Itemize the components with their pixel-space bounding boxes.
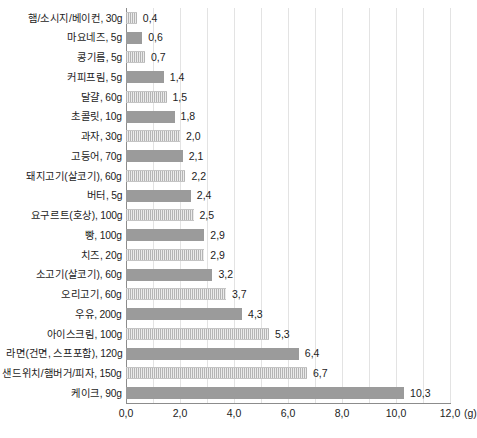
bar bbox=[126, 32, 142, 44]
category-label: 빵, 100g bbox=[85, 230, 122, 241]
bar-value-label: 3,2 bbox=[218, 269, 233, 280]
bar bbox=[126, 387, 404, 399]
category-label: 우유, 200g bbox=[75, 309, 122, 320]
category-label-row: 돼지고기(살코기), 60g bbox=[0, 166, 122, 186]
bar-row: 2,1 bbox=[126, 146, 472, 166]
category-label-row: 치즈, 20g bbox=[0, 245, 122, 265]
bar bbox=[126, 91, 167, 103]
category-label: 돼지고기(살코기), 60g bbox=[26, 171, 122, 182]
x-tick-label-10: 10,0 bbox=[386, 408, 406, 419]
bar-row: 4,3 bbox=[126, 304, 472, 324]
bar bbox=[126, 348, 299, 360]
category-label-row: 마요네즈, 5g bbox=[0, 28, 122, 48]
category-label: 라면(건면, 스프포함), 120g bbox=[6, 348, 122, 359]
bar bbox=[126, 269, 212, 281]
bar-value-label: 1,4 bbox=[170, 72, 185, 83]
bar-value-label: 2,0 bbox=[186, 131, 201, 142]
bar-value-label: 2,1 bbox=[189, 151, 204, 162]
bar-value-label: 1,5 bbox=[173, 92, 188, 103]
bar-row: 6,7 bbox=[126, 364, 472, 384]
bar bbox=[126, 130, 180, 142]
x-tick-label-6: 6,0 bbox=[281, 408, 296, 419]
bar bbox=[126, 190, 191, 202]
category-label: 마요네즈, 5g bbox=[67, 32, 122, 43]
category-label: 햄/소시지/베이컨, 30g bbox=[28, 13, 122, 24]
bar-row: 2,9 bbox=[126, 245, 472, 265]
category-label: 치즈, 20g bbox=[81, 250, 122, 261]
bar-row: 0,6 bbox=[126, 28, 472, 48]
bar bbox=[126, 111, 175, 123]
category-label: 샌드위치/햄버거/피자, 150g bbox=[3, 368, 122, 379]
category-label: 초콜릿, 10g bbox=[71, 111, 122, 122]
bar-value-label: 1,8 bbox=[181, 111, 196, 122]
bar bbox=[126, 12, 137, 24]
category-label: 케이크, 90g bbox=[71, 388, 122, 399]
category-label: 소고기(살코기), 60g bbox=[36, 269, 122, 280]
bar-row: 2,5 bbox=[126, 206, 472, 226]
bar bbox=[126, 308, 242, 320]
category-label: 콩기름, 5g bbox=[77, 52, 122, 63]
x-tick-label-2: 2,0 bbox=[173, 408, 188, 419]
category-label: 과자, 30g bbox=[81, 131, 122, 142]
bar-row: 10,3 bbox=[126, 383, 472, 403]
bar bbox=[126, 367, 307, 379]
bar-row: 0,4 bbox=[126, 8, 472, 28]
x-tick-label-8: 8,0 bbox=[335, 408, 350, 419]
x-axis-tick-labels: 0,02,04,06,08,010,012,0(g) bbox=[0, 406, 472, 426]
category-label-row: 우유, 200g bbox=[0, 304, 122, 324]
x-tick-label-4: 4,0 bbox=[227, 408, 242, 419]
bar-row: 2,9 bbox=[126, 225, 472, 245]
category-label-row: 과자, 30g bbox=[0, 127, 122, 147]
bar bbox=[126, 288, 226, 300]
bar-value-label: 0,6 bbox=[148, 32, 163, 43]
bar-value-label: 2,4 bbox=[197, 190, 212, 201]
category-label-row: 고등어, 70g bbox=[0, 146, 122, 166]
category-label-row: 달걀, 60g bbox=[0, 87, 122, 107]
category-label: 달걀, 60g bbox=[81, 92, 122, 103]
x-axis-unit-label: (g) bbox=[464, 408, 477, 419]
category-label-row: 버터, 5g bbox=[0, 186, 122, 206]
bar-value-label: 6,7 bbox=[313, 368, 328, 379]
bar-row: 3,7 bbox=[126, 285, 472, 305]
bar-row: 6,4 bbox=[126, 344, 472, 364]
bar bbox=[126, 71, 164, 83]
bar-value-label: 2,2 bbox=[191, 171, 206, 182]
bar-row: 2,0 bbox=[126, 127, 472, 147]
bar bbox=[126, 209, 194, 221]
bar bbox=[126, 150, 183, 162]
category-label-row: 케이크, 90g bbox=[0, 383, 122, 403]
bar bbox=[126, 170, 185, 182]
bar-value-label: 2,9 bbox=[210, 250, 225, 261]
x-tick-label-0: 0,0 bbox=[119, 408, 134, 419]
category-axis-labels: 햄/소시지/베이컨, 30g마요네즈, 5g콩기름, 5g커피프림, 5g달걀,… bbox=[0, 8, 122, 403]
category-label-row: 소고기(살코기), 60g bbox=[0, 265, 122, 285]
bar-row: 0,7 bbox=[126, 48, 472, 68]
x-axis-line bbox=[126, 403, 451, 404]
category-label-row: 오리고기, 60g bbox=[0, 285, 122, 305]
bar-value-label: 4,3 bbox=[248, 309, 263, 320]
bar-value-label: 6,4 bbox=[305, 348, 320, 359]
category-label-row: 요구르트(호상), 100g bbox=[0, 206, 122, 226]
category-label: 버터, 5g bbox=[86, 190, 122, 201]
bar-row: 2,2 bbox=[126, 166, 472, 186]
category-label-row: 샌드위치/햄버거/피자, 150g bbox=[0, 364, 122, 384]
bar-value-label: 2,9 bbox=[210, 230, 225, 241]
bar-row: 1,5 bbox=[126, 87, 472, 107]
category-label-row: 햄/소시지/베이컨, 30g bbox=[0, 8, 122, 28]
bar-row: 3,2 bbox=[126, 265, 472, 285]
bar-value-label: 0,7 bbox=[151, 52, 166, 63]
bar bbox=[126, 328, 269, 340]
bar bbox=[126, 51, 145, 63]
x-tick-label-12: 12,0 bbox=[440, 408, 460, 419]
bar-row: 2,4 bbox=[126, 186, 472, 206]
category-label: 아이스크림, 100g bbox=[47, 329, 122, 340]
bar-value-label: 3,7 bbox=[232, 289, 247, 300]
category-label: 고등어, 70g bbox=[71, 151, 122, 162]
category-label: 커피프림, 5g bbox=[67, 72, 122, 83]
category-label: 요구르트(호상), 100g bbox=[30, 210, 122, 221]
bar-row: 5,3 bbox=[126, 324, 472, 344]
bar-value-label: 2,5 bbox=[200, 210, 215, 221]
bar-row: 1,8 bbox=[126, 107, 472, 127]
bar-value-label: 5,3 bbox=[275, 329, 290, 340]
bar-series: 0,40,60,71,41,51,82,02,12,22,42,52,92,93… bbox=[126, 8, 472, 403]
